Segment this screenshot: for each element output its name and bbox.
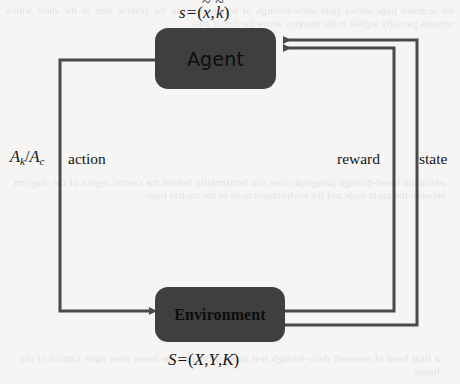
- environment-state-term-y: Y: [208, 350, 217, 369]
- edge-path-state: [283, 40, 417, 325]
- node-environment-label: Environment: [174, 306, 265, 324]
- environment-state-term-x: X: [194, 350, 204, 369]
- edge-path-action: [60, 60, 155, 311]
- figure-page: the scanned page shows faint show-throug…: [0, 0, 460, 384]
- agent-state-formula: s=(~x, ~k): [179, 3, 229, 23]
- node-agent[interactable]: Agent: [155, 28, 276, 89]
- action-space-ratio-numerator-base: A: [10, 147, 20, 166]
- agent-state-operator: =: [186, 3, 198, 22]
- agent-state-comma: ,: [210, 3, 214, 22]
- environment-state-lhs: S: [168, 350, 177, 369]
- agent-state-lhs: s: [179, 3, 186, 22]
- agent-state-close-paren: ): [224, 3, 230, 22]
- node-environment[interactable]: Environment: [155, 287, 285, 342]
- agent-state-term-x: ~x: [203, 3, 211, 23]
- agent-state-term-k: ~k: [216, 3, 224, 23]
- edge-path-reward: [283, 48, 394, 311]
- edge-label-reward: reward: [337, 150, 380, 168]
- tilde-accent-k-icon: ~: [215, 0, 223, 9]
- environment-state-close-paren: ): [233, 350, 239, 369]
- tilde-accent-x-icon: ~: [202, 0, 210, 9]
- action-space-ratio-denominator-base: A: [30, 147, 40, 166]
- edge-label-action: action: [68, 150, 106, 168]
- action-space-ratio-denominator-sub: c: [40, 155, 45, 167]
- edge-label-state: state: [419, 150, 447, 168]
- environment-state-term-k: K: [222, 350, 233, 369]
- environment-state-operator: =: [177, 350, 189, 369]
- environment-state-formula: S=(X,Y,K): [168, 350, 239, 370]
- node-agent-label: Agent: [187, 48, 244, 70]
- action-space-ratio-label: Ak/Ac: [10, 147, 44, 167]
